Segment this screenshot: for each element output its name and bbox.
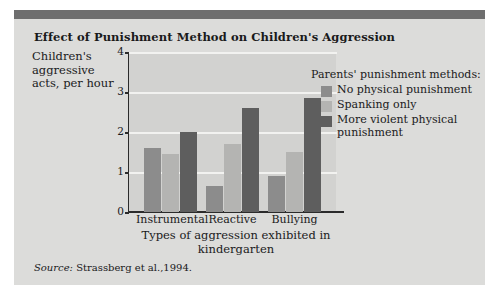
gridline (129, 92, 337, 94)
legend-swatch-icon (321, 116, 332, 127)
y-axis-tick-mark (125, 52, 129, 54)
legend-item-label: No physical punishment (337, 84, 472, 97)
y-axis-tick-label: 0 (110, 205, 124, 217)
source-label: Source: (34, 262, 73, 273)
y-axis-tick-mark (125, 172, 129, 174)
legend-item: More violent physical punishment (321, 114, 481, 139)
legend-item-label: More violent physical punishment (337, 114, 481, 139)
bar (286, 152, 303, 212)
legend: Parents' punishment methods: No physical… (311, 68, 481, 141)
legend-swatch-icon (321, 86, 332, 97)
legend-title: Parents' punishment methods: (311, 68, 481, 81)
y-axis-tick-mark (125, 92, 129, 94)
y-axis-title: Children's aggressive acts, per hour (32, 50, 118, 91)
x-axis-title: Types of aggression exhibited in kinderg… (128, 229, 344, 256)
legend-items: No physical punishmentSpanking onlyMore … (311, 84, 481, 139)
y-axis-tick-label: 3 (110, 85, 124, 97)
y-axis-tick-label: 2 (110, 125, 124, 137)
bar (162, 154, 179, 212)
bar (180, 132, 197, 212)
y-axis-tick-mark (125, 212, 129, 214)
legend-swatch-icon (321, 101, 332, 112)
y-axis-tick-mark (125, 132, 129, 134)
bar (268, 176, 285, 212)
y-axis-tick-label: 4 (110, 45, 124, 57)
figure-panel: Effect of Punishment Method on Children'… (14, 10, 485, 285)
accent-band (14, 10, 485, 19)
bar (206, 186, 223, 212)
source-note: Source: Strassberg et al.,1994. (34, 262, 192, 273)
source-text: Strassberg et al.,1994. (76, 262, 192, 273)
legend-item: Spanking only (321, 99, 481, 112)
legend-item-label: Spanking only (337, 99, 416, 112)
bar (224, 144, 241, 212)
bar (242, 108, 259, 212)
page-title: Effect of Punishment Method on Children'… (34, 30, 395, 44)
legend-item: No physical punishment (321, 84, 481, 97)
gridline (129, 52, 337, 54)
x-axis-category-label: Bullying (260, 213, 329, 226)
x-axis-category-label: Instrumental (136, 213, 205, 226)
y-axis-tick-label: 1 (110, 165, 124, 177)
bar (144, 148, 161, 212)
x-axis-category-label: Reactive (198, 213, 267, 226)
